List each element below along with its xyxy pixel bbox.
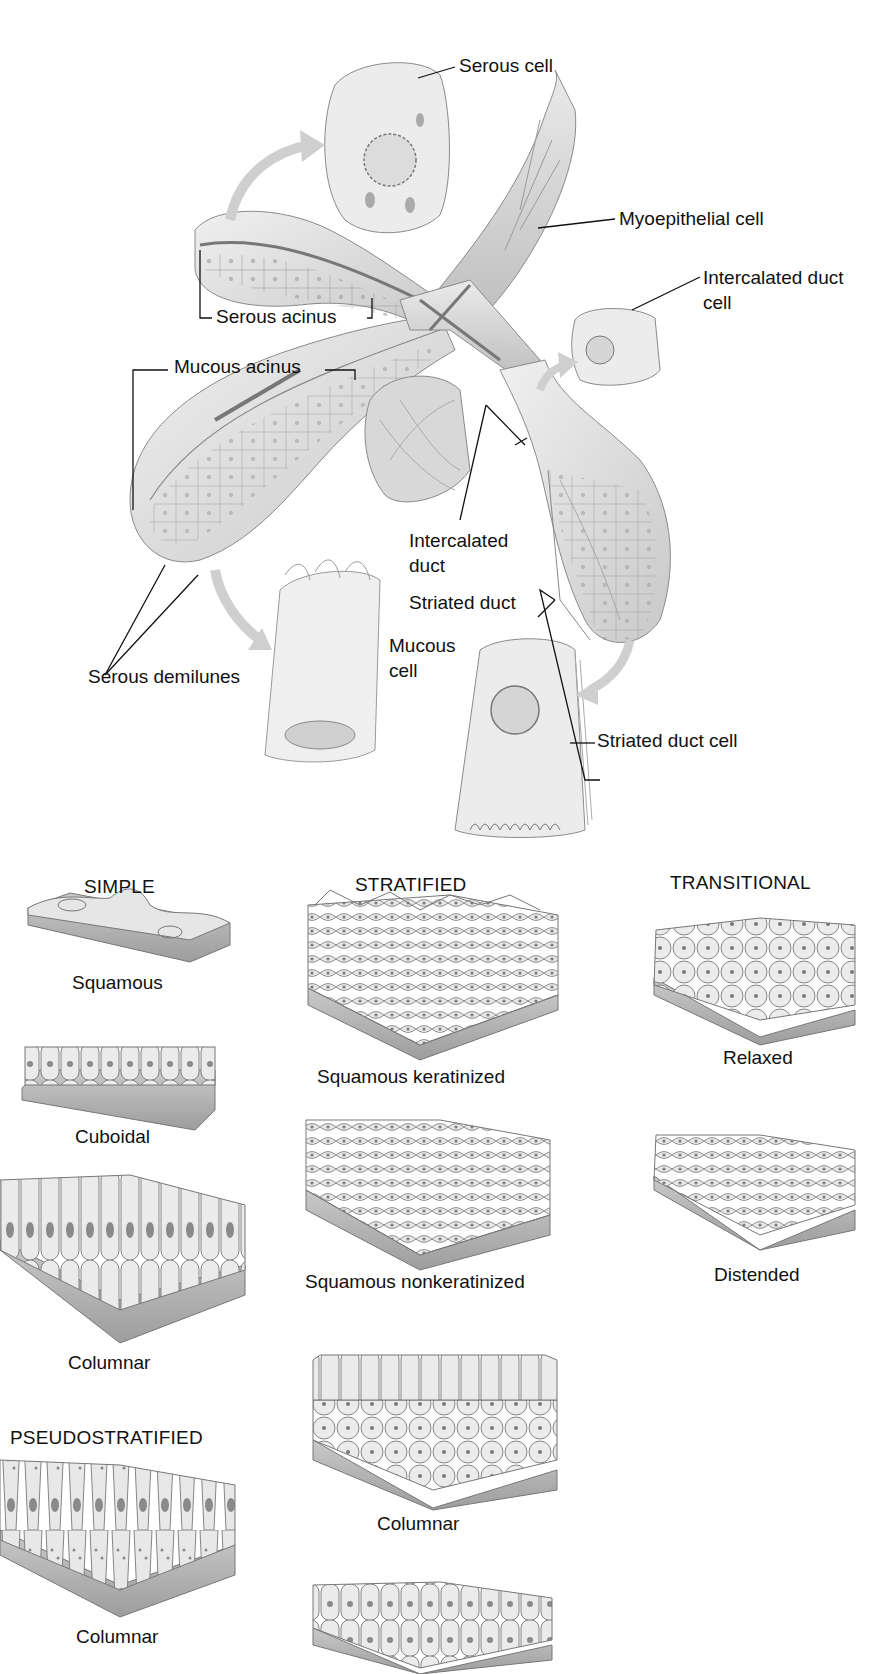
heading-simple: SIMPLE	[84, 876, 155, 898]
label-pseudostratified-columnar: Columnar	[76, 1626, 158, 1648]
label-transitional-distended: Distended	[714, 1264, 800, 1286]
simple-columnar-tissue	[0, 1175, 245, 1343]
label-transitional-relaxed: Relaxed	[723, 1047, 793, 1069]
label-stratified-squamous-keratinized: Squamous keratinized	[317, 1066, 505, 1088]
simple-squamous-tissue	[28, 889, 230, 962]
label-stratified-columnar: Columnar	[377, 1513, 459, 1535]
transitional-relaxed-tissue	[654, 918, 855, 1045]
pseudostratified-columnar-tissue	[0, 1460, 235, 1617]
epithelium-illustrations	[0, 0, 887, 1674]
heading-pseudostratified: PSEUDOSTRATIFIED	[10, 1427, 203, 1449]
transitional-distended-tissue	[654, 1135, 855, 1250]
stratified-cuboidal-tissue	[313, 1582, 552, 1674]
label-simple-squamous: Squamous	[72, 972, 163, 994]
heading-transitional: TRANSITIONAL	[670, 872, 811, 894]
label-simple-columnar: Columnar	[68, 1352, 150, 1374]
simple-cuboidal-tissue	[22, 1047, 215, 1130]
stratified-columnar-tissue	[313, 1355, 557, 1510]
label-simple-cuboidal: Cuboidal	[75, 1126, 150, 1148]
label-stratified-squamous-nonkeratinized: Squamous nonkeratinized	[305, 1271, 525, 1293]
stratified-squamous-nonkeratinized-tissue	[306, 1120, 550, 1270]
heading-stratified: STRATIFIED	[355, 874, 466, 896]
stratified-squamous-keratinized-tissue	[308, 890, 558, 1060]
